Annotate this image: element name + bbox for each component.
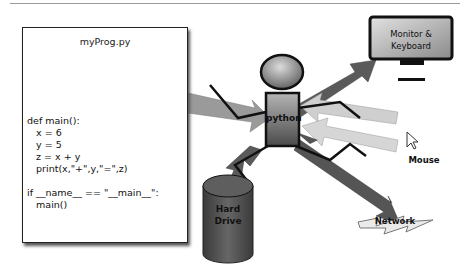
network-label: Network	[370, 216, 420, 226]
python-head	[261, 55, 303, 89]
monitor-label: Monitor & Keyboard	[372, 28, 450, 52]
arrow-mouse-to-python	[302, 118, 398, 152]
cursor-arrow-icon	[407, 132, 418, 149]
program-code: def main(): x = 6 y = 5 z = x + y print(…	[27, 115, 159, 211]
arrow-program-to-python	[188, 93, 270, 132]
hard-drive-label: Hard Drive	[203, 203, 253, 227]
keyboard	[398, 78, 425, 81]
program-file-box: myProg.py def main(): x = 6 y = 5 z = x …	[22, 27, 188, 243]
python-label: python	[266, 113, 299, 123]
mouse-label: Mouse	[404, 155, 444, 165]
program-title: myProg.py	[23, 36, 187, 47]
